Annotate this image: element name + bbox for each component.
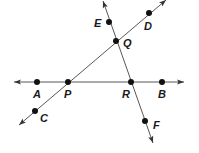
point-label-c: C: [40, 112, 49, 124]
point-label-p: P: [64, 88, 72, 100]
point-b: [159, 79, 165, 85]
line-cd: [19, 0, 166, 125]
point-c: [32, 108, 38, 114]
geometry-diagram: APRBQEDCF: [0, 0, 199, 153]
point-q: [113, 38, 119, 44]
point-label-f: F: [153, 119, 160, 131]
point-p: [65, 79, 71, 85]
point-label-q: Q: [123, 37, 132, 49]
point-label-e: E: [94, 17, 102, 29]
point-r: [128, 79, 134, 85]
point-a: [34, 79, 40, 85]
point-d: [146, 10, 152, 16]
point-label-d: D: [144, 20, 152, 32]
point-label-a: A: [32, 88, 41, 100]
point-f: [142, 118, 148, 124]
point-e: [106, 19, 112, 25]
point-label-b: B: [158, 88, 166, 100]
point-label-r: R: [122, 88, 130, 100]
